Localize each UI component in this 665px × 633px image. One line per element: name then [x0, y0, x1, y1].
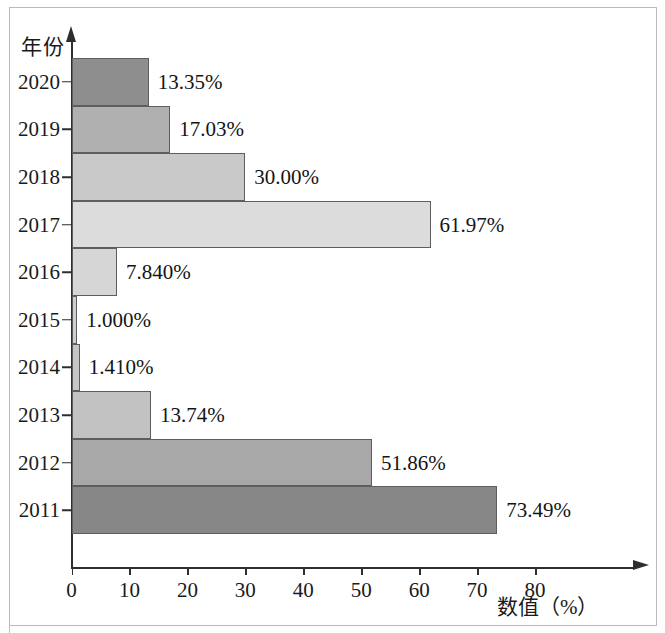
y-axis-tick: [62, 271, 71, 273]
y-axis-tick: [62, 319, 71, 321]
y-axis-tick-label: 2019: [0, 117, 60, 142]
x-axis-tick-label: 30: [235, 578, 256, 603]
x-axis-title: 数值（%）: [497, 590, 599, 620]
x-axis-tick-label: 70: [467, 578, 488, 603]
x-axis-tick: [535, 567, 537, 575]
bar-value-label: 13.35%: [158, 69, 223, 94]
y-axis-title: 年份: [21, 30, 65, 60]
bar-value-label: 30.00%: [254, 165, 319, 190]
bar-value-label: 1.410%: [89, 355, 154, 380]
y-axis-arrow-icon: [66, 26, 76, 42]
y-axis-tick: [62, 367, 71, 369]
bar-value-label: 13.74%: [160, 403, 225, 428]
bar: [72, 344, 80, 392]
y-axis-tick: [62, 224, 71, 226]
y-axis-tick-label: 2020: [0, 69, 60, 94]
bar: [72, 296, 78, 344]
y-axis-tick-label: 2013: [0, 403, 60, 428]
x-axis-tick-label: 50: [351, 578, 372, 603]
bar: [72, 391, 152, 439]
bar: [72, 58, 149, 106]
bar: [72, 201, 431, 249]
x-axis-arrow-icon: [633, 560, 649, 570]
y-axis-tick: [62, 129, 71, 131]
y-axis-tick: [62, 462, 71, 464]
bar: [72, 486, 498, 534]
bar: [72, 439, 372, 487]
y-axis-tick-label: 2011: [0, 498, 60, 523]
x-axis-tick: [303, 567, 305, 575]
y-axis-tick: [62, 509, 71, 511]
bar-value-label: 1.000%: [86, 307, 151, 332]
x-axis-tick-label: 60: [409, 578, 430, 603]
bar: [72, 248, 117, 296]
bar-value-label: 73.49%: [506, 498, 571, 523]
bar: [72, 106, 171, 154]
x-axis-tick: [419, 567, 421, 575]
x-axis-tick: [361, 567, 363, 575]
x-axis-tick-label: 40: [293, 578, 314, 603]
y-axis-tick-label: 2012: [0, 450, 60, 475]
x-axis-tick: [245, 567, 247, 575]
x-axis-line: [71, 567, 636, 569]
y-axis-tick: [62, 414, 71, 416]
bar-value-label: 51.86%: [381, 450, 446, 475]
y-axis-tick-label: 2014: [0, 355, 60, 380]
x-axis-tick: [129, 567, 131, 575]
y-axis-tick-label: 2016: [0, 260, 60, 285]
chart-page: 年份 数值（%） 13.35%17.03%30.00%61.97%7.840%1…: [0, 0, 665, 633]
x-axis-tick: [477, 567, 479, 575]
bar: [72, 153, 246, 201]
x-axis-tick-label: 80: [525, 578, 546, 603]
bar-value-label: 61.97%: [440, 212, 505, 237]
y-axis-tick-label: 2017: [0, 212, 60, 237]
x-axis-tick-label: 10: [119, 578, 140, 603]
bar-value-label: 7.840%: [126, 260, 191, 285]
bar-value-label: 17.03%: [179, 117, 244, 142]
x-axis-tick: [72, 567, 74, 575]
y-axis-tick-label: 2015: [0, 307, 60, 332]
y-axis-tick: [62, 176, 71, 178]
x-axis-tick: [187, 567, 189, 575]
y-axis-tick-label: 2018: [0, 165, 60, 190]
x-axis-tick-label: 0: [66, 578, 77, 603]
plot-area: 年份 数值（%） 13.35%17.03%30.00%61.97%7.840%1…: [0, 0, 665, 633]
y-axis-tick: [62, 81, 71, 83]
x-axis-tick-label: 20: [177, 578, 198, 603]
